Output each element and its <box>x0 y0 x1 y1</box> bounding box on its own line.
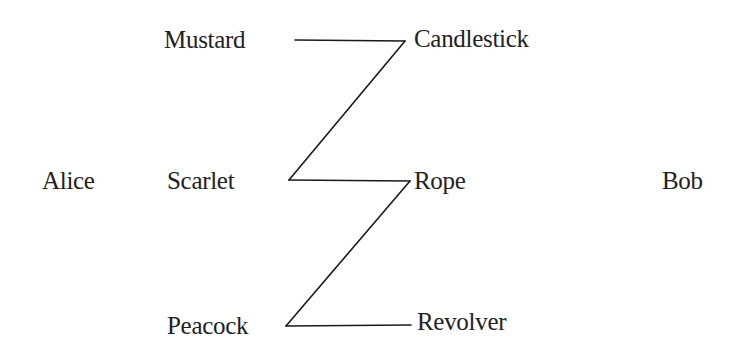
edge-layer <box>0 0 751 351</box>
edge-candlestick-scarlet <box>289 41 405 180</box>
node-alice: Alice <box>42 168 95 193</box>
edge-rope-peacock <box>286 181 410 326</box>
node-candlestick: Candlestick <box>414 26 529 51</box>
edge-peacock-revolver <box>286 325 411 326</box>
node-revolver: Revolver <box>417 309 506 334</box>
node-scarlet: Scarlet <box>167 168 234 193</box>
node-peacock: Peacock <box>167 313 248 338</box>
node-bob: Bob <box>662 168 703 193</box>
node-rope: Rope <box>414 168 466 193</box>
edge-mustard-candlestick <box>295 40 405 41</box>
node-mustard: Mustard <box>164 27 245 52</box>
edge-scarlet-rope <box>289 180 410 181</box>
